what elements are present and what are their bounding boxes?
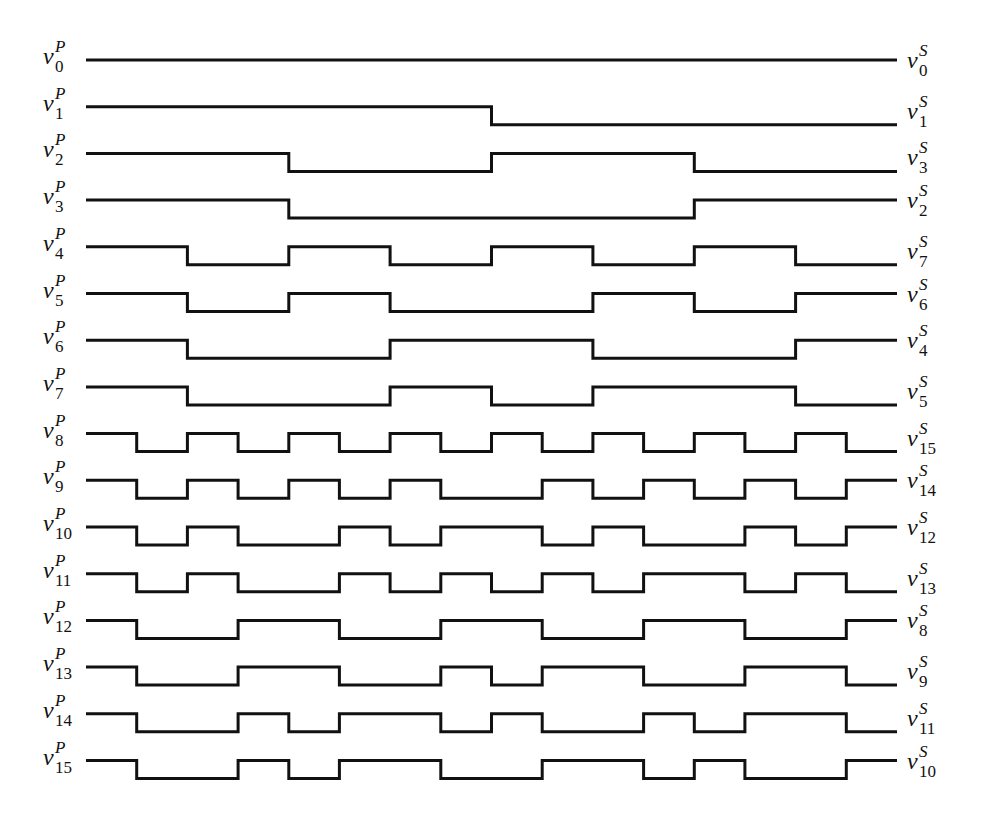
waveform-row-4 bbox=[86, 247, 897, 265]
left-label-v3-p: vP3 bbox=[43, 184, 54, 208]
right-label-v2-s: vS2 bbox=[907, 188, 918, 212]
waveform-row-11 bbox=[86, 574, 897, 592]
left-label-v14-p: vP14 bbox=[43, 698, 54, 722]
waveform-row-12 bbox=[86, 620, 897, 638]
right-label-v8-s: vS8 bbox=[907, 608, 918, 632]
right-label-v0-s: vS0 bbox=[907, 48, 918, 72]
waveform-row-15 bbox=[86, 761, 897, 779]
right-label-v1-s: vS1 bbox=[907, 99, 918, 123]
waveform-row-14 bbox=[86, 714, 897, 732]
waveform-row-13 bbox=[86, 667, 897, 685]
right-label-v5-s: vS5 bbox=[907, 379, 918, 403]
left-label-v11-p: vP11 bbox=[43, 558, 54, 582]
waveform-row-3 bbox=[86, 200, 897, 218]
right-label-v9-s: vS9 bbox=[907, 659, 918, 683]
left-label-v0-p: vP0 bbox=[43, 44, 54, 68]
waveform-row-1 bbox=[86, 107, 897, 125]
left-label-v13-p: vP13 bbox=[43, 651, 54, 675]
waveform-row-7 bbox=[86, 387, 897, 405]
waveform-row-6 bbox=[86, 340, 897, 358]
left-label-v8-p: vP8 bbox=[43, 418, 54, 442]
left-label-v6-p: vP6 bbox=[43, 324, 54, 348]
right-label-v11-s: vS11 bbox=[907, 706, 918, 730]
right-label-v12-s: vS12 bbox=[907, 515, 918, 539]
waveform-row-2 bbox=[86, 153, 897, 171]
right-label-v3-s: vS3 bbox=[907, 145, 918, 169]
left-label-v4-p: vP4 bbox=[43, 231, 54, 255]
waveform-row-8 bbox=[86, 434, 897, 452]
left-label-v12-p: vP12 bbox=[43, 604, 54, 628]
left-label-v2-p: vP2 bbox=[43, 137, 54, 161]
right-label-v6-s: vS6 bbox=[907, 282, 918, 306]
waveform-row-9 bbox=[86, 480, 897, 498]
right-label-v10-s: vS10 bbox=[907, 749, 918, 773]
right-label-v14-s: vS14 bbox=[907, 468, 918, 492]
left-label-v9-p: vP9 bbox=[43, 464, 54, 488]
waveform-diagram bbox=[0, 0, 982, 818]
waveform-row-5 bbox=[86, 294, 897, 312]
right-label-v15-s: vS15 bbox=[907, 426, 918, 450]
left-label-v1-p: vP1 bbox=[43, 91, 54, 115]
right-label-v13-s: vS13 bbox=[907, 566, 918, 590]
waveform-row-10 bbox=[86, 527, 897, 545]
left-label-v10-p: vP10 bbox=[43, 511, 54, 535]
left-label-v15-p: vP15 bbox=[43, 745, 54, 769]
right-label-v7-s: vS7 bbox=[907, 239, 918, 263]
right-label-v4-s: vS4 bbox=[907, 328, 918, 352]
left-label-v7-p: vP7 bbox=[43, 371, 54, 395]
left-label-v5-p: vP5 bbox=[43, 278, 54, 302]
